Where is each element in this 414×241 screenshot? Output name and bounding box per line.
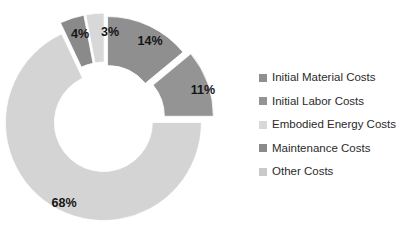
slice-other-data-label: 68% — [51, 196, 76, 210]
legend-swatch-icon — [259, 121, 267, 129]
legend-item-label: Initial Material Costs — [272, 72, 376, 84]
legend-item[interactable]: Initial Labor Costs — [259, 90, 414, 114]
legend-swatch-icon — [259, 144, 267, 152]
legend-item-label: Other Costs — [272, 166, 333, 178]
legend-item-label: Initial Labor Costs — [272, 96, 364, 108]
legend-swatch-icon — [259, 74, 267, 82]
legend-swatch-icon — [259, 97, 267, 105]
legend-item[interactable]: Initial Material Costs — [259, 66, 414, 90]
slice-initial-material-data-label: 14% — [137, 34, 162, 48]
doughnut-chart: 14%11%68%4%3% Initial Material CostsInit… — [0, 0, 414, 241]
slice-initial-labor-data-label: 11% — [191, 83, 215, 97]
doughnut-svg: 14%11%68%4%3% — [0, 0, 250, 241]
legend-item-label: Embodied Energy Costs — [272, 119, 396, 131]
slice-group — [5, 13, 213, 220]
doughnut-plot-area: 14%11%68%4%3% — [0, 0, 250, 241]
slice-embodied-energy-data-label: 3% — [101, 25, 119, 39]
legend-item[interactable]: Other Costs — [259, 160, 414, 184]
chart-legend: Initial Material CostsInitial Labor Cost… — [259, 66, 414, 184]
legend-swatch-icon — [259, 168, 267, 176]
legend-item-label: Maintenance Costs — [272, 143, 370, 155]
slice-maintenance-data-label: 4% — [71, 27, 89, 41]
legend-item[interactable]: Maintenance Costs — [259, 137, 414, 161]
legend-item[interactable]: Embodied Energy Costs — [259, 113, 414, 137]
